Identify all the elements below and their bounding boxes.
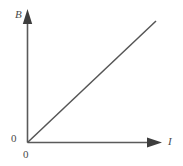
x-axis-arrowhead bbox=[147, 137, 162, 147]
chart-figure: B I 0 0 bbox=[0, 0, 183, 166]
chart-plot-area bbox=[0, 0, 183, 166]
data-line-b-vs-i bbox=[28, 21, 157, 143]
y-axis-arrowhead bbox=[23, 9, 32, 24]
y-axis-label: B bbox=[15, 9, 22, 20]
x-axis-label: I bbox=[168, 136, 172, 147]
y-axis-zero-tick-label: 0 bbox=[11, 133, 17, 144]
x-axis-zero-tick-label: 0 bbox=[23, 149, 29, 160]
